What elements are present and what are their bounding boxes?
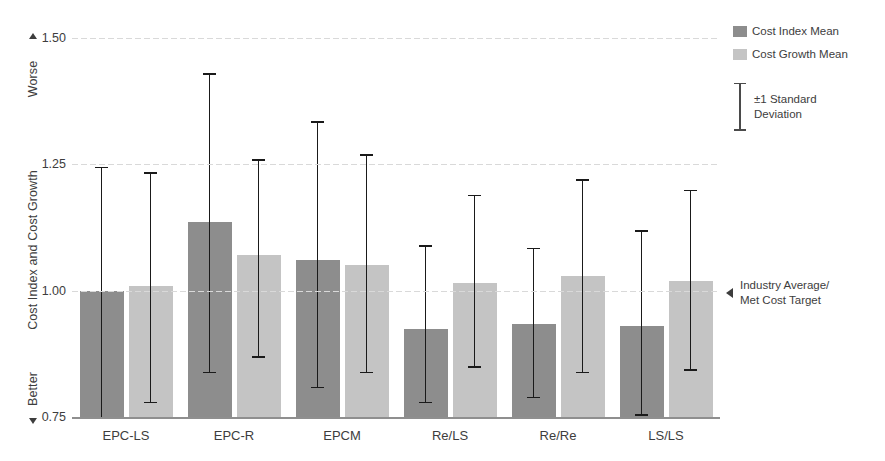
legend-item-cost-growth-mean: Cost Growth Mean: [733, 47, 883, 61]
error-bar-cap-bottom: [576, 372, 589, 374]
error-bar: [317, 121, 318, 386]
bar-pair: [180, 38, 288, 417]
x-axis-label: Re/LS: [396, 421, 504, 451]
legend: Cost Index Mean Cost Growth Mean ±1 Stan…: [733, 24, 883, 131]
gridline: [72, 38, 720, 39]
error-bar: [690, 190, 691, 369]
legend-label-cost-index-mean: Cost Index Mean: [752, 24, 839, 38]
error-bar-cap-bottom: [468, 366, 481, 368]
error-bar-cap-top: [527, 248, 540, 250]
bar-pair: [288, 38, 396, 417]
bar-wrapper: [453, 38, 497, 417]
bar-wrapper: [620, 38, 664, 417]
legend-label-standard-deviation: ±1 Standard Deviation: [754, 92, 817, 121]
x-axis-label: EPCM: [288, 421, 396, 451]
industry-average-annotation: Industry Average/ Met Cost Target: [726, 278, 829, 308]
bar-wrapper: [669, 38, 713, 417]
error-bar: [209, 73, 210, 371]
error-bar-cap-top: [360, 154, 373, 156]
error-bar: [101, 167, 102, 417]
x-axis-line: [72, 417, 720, 419]
bar-group: [504, 38, 612, 417]
error-bar-cap-bottom: [684, 369, 697, 371]
bar-wrapper: [80, 38, 124, 417]
y-tick-label: 1.25: [22, 157, 66, 171]
error-bar-cap-bottom: [311, 387, 324, 389]
bar-group: [612, 38, 720, 417]
error-bar-cap-top: [684, 190, 697, 192]
error-bar-icon: [733, 83, 747, 131]
error-bar-cap-top: [419, 245, 432, 247]
bar-group: [288, 38, 396, 417]
error-bar-cap-bottom: [203, 372, 216, 374]
error-bar: [533, 248, 534, 397]
std-label-line1: ±1 Standard: [754, 93, 817, 105]
y-tick-label: 1.00: [22, 284, 66, 298]
industry-average-text: Industry Average/ Met Cost Target: [740, 278, 829, 308]
error-bar-cap-top: [144, 172, 157, 174]
bar-pair: [612, 38, 720, 417]
gridline: [72, 291, 720, 292]
y-tick-label: 1.50: [22, 31, 66, 45]
error-bar-cap-bottom: [252, 356, 265, 358]
y-tick-column: 1.501.251.000.75: [8, 0, 66, 461]
error-bar: [582, 179, 583, 371]
bar-wrapper: [404, 38, 448, 417]
bar-group: [72, 38, 180, 417]
bar-groups: [72, 38, 720, 417]
bar-group: [180, 38, 288, 417]
error-bar-cap-top: [576, 179, 589, 181]
x-axis-label: EPC-R: [180, 421, 288, 451]
legend-item-standard-deviation: ±1 Standard Deviation: [733, 83, 883, 131]
error-bar-cap-bottom: [419, 402, 432, 404]
left-arrow-icon: [726, 288, 733, 298]
y-tick-label: 0.75: [22, 410, 66, 424]
error-bar-cap-top: [635, 230, 648, 232]
plot-area: [72, 38, 720, 417]
bar-wrapper: [129, 38, 173, 417]
legend-label-cost-growth-mean: Cost Growth Mean: [752, 47, 848, 61]
error-bar-cap-top: [95, 167, 108, 169]
bar-wrapper: [237, 38, 281, 417]
error-bar: [474, 195, 475, 367]
error-bar-cap-top: [252, 159, 265, 161]
gridline: [72, 164, 720, 165]
error-bar-cap-bottom: [527, 397, 540, 399]
x-axis-label: Re/Re: [504, 421, 612, 451]
bar-wrapper: [345, 38, 389, 417]
x-axis-label: EPC-LS: [72, 421, 180, 451]
bar-pair: [504, 38, 612, 417]
bar-pair: [72, 38, 180, 417]
bar-group: [396, 38, 504, 417]
error-bar: [150, 172, 151, 402]
annotation-line2: Met Cost Target: [740, 294, 821, 306]
error-bar-cap-bottom: [635, 414, 648, 416]
error-bar: [425, 245, 426, 402]
std-label-line2: Deviation: [754, 108, 802, 120]
bar-pair: [396, 38, 504, 417]
error-bar-cap-top: [203, 73, 216, 75]
legend-swatch-dark: [733, 26, 747, 37]
legend-swatch-light: [733, 49, 747, 60]
bar-wrapper: [561, 38, 605, 417]
error-bar-cap-bottom: [144, 402, 157, 404]
bar-wrapper: [188, 38, 232, 417]
error-bar: [641, 230, 642, 414]
error-bar-cap-bottom: [360, 372, 373, 374]
error-bar: [258, 159, 259, 356]
bar-wrapper: [296, 38, 340, 417]
error-bar-cap-top: [468, 195, 481, 197]
error-bar-cap-top: [311, 121, 324, 123]
error-bar: [366, 154, 367, 371]
annotation-line1: Industry Average/: [740, 279, 829, 291]
x-axis-label: LS/LS: [612, 421, 720, 451]
x-axis-labels: EPC-LSEPC-REPCMRe/LSRe/ReLS/LS: [72, 421, 720, 451]
chart-root: Worse Cost Index and Cost Growth Better …: [0, 0, 885, 461]
legend-item-cost-index-mean: Cost Index Mean: [733, 24, 883, 38]
bar-wrapper: [512, 38, 556, 417]
